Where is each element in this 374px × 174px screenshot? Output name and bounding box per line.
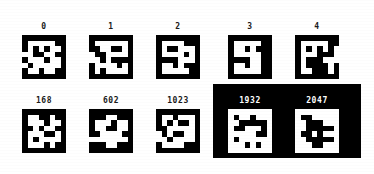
pattern-bitmap xyxy=(89,109,133,153)
pattern-label: 1 xyxy=(108,22,113,32)
bitmap-pixel xyxy=(61,74,67,80)
bitmap-pixel xyxy=(334,74,340,80)
pattern-bitmap xyxy=(22,35,66,79)
pattern-cell-2047[interactable]: 2047 xyxy=(295,96,339,153)
pattern-label: 2 xyxy=(175,22,180,32)
bitmap-pixel xyxy=(334,148,340,154)
bitmap-pixel xyxy=(267,74,273,80)
pattern-bitmap xyxy=(89,35,133,79)
bitmap-pixel xyxy=(61,148,67,154)
pattern-cell-3[interactable]: 3 xyxy=(228,22,272,79)
pattern-bitmap xyxy=(295,109,339,153)
bitmap-pixel xyxy=(128,74,134,80)
pattern-cell-602[interactable]: 602 xyxy=(89,96,133,153)
pattern-cell-0[interactable]: 0 xyxy=(22,22,66,79)
pattern-cell-1023[interactable]: 1023 xyxy=(156,96,200,153)
pattern-label: 0 xyxy=(41,22,46,32)
figure-canvas: 01234168602102319322047 xyxy=(0,0,374,174)
pattern-cell-2[interactable]: 2 xyxy=(156,22,200,79)
pattern-label: 602 xyxy=(103,96,119,106)
pattern-label: 4 xyxy=(314,22,319,32)
pattern-bitmap xyxy=(22,109,66,153)
pattern-bitmap xyxy=(228,35,272,79)
pattern-label: 1023 xyxy=(167,96,189,106)
pattern-label: 168 xyxy=(36,96,52,106)
pattern-bitmap xyxy=(156,35,200,79)
pattern-label: 1932 xyxy=(239,96,261,106)
bitmap-pixel xyxy=(195,148,201,154)
pattern-label: 3 xyxy=(247,22,252,32)
bitmap-pixel xyxy=(267,148,273,154)
pattern-bitmap xyxy=(228,109,272,153)
pattern-cell-1[interactable]: 1 xyxy=(89,22,133,79)
pattern-bitmap xyxy=(156,109,200,153)
bitmap-pixel xyxy=(195,74,201,80)
pattern-cell-4[interactable]: 4 xyxy=(295,22,339,79)
pattern-cell-1932[interactable]: 1932 xyxy=(228,96,272,153)
bitmap-pixel xyxy=(128,148,134,154)
pattern-cell-168[interactable]: 168 xyxy=(22,96,66,153)
pattern-label: 2047 xyxy=(306,96,328,106)
pattern-bitmap xyxy=(295,35,339,79)
